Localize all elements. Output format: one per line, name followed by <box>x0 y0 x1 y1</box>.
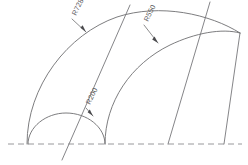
technical-drawing-canvas: R728 R550 R200 <box>0 0 248 165</box>
arc-group <box>27 11 240 144</box>
radial-line-group <box>62 2 240 160</box>
outer-arc <box>27 11 240 144</box>
radial-line-left <box>62 5 130 160</box>
dimension-label-middle-arc: R550 <box>142 3 158 23</box>
dimension-inner-arc: R200 <box>84 86 100 116</box>
radial-line-middle <box>168 2 210 144</box>
middle-arc <box>105 31 240 144</box>
inner-arc <box>28 113 105 144</box>
dimension-label-outer-arc: R728 <box>70 0 86 17</box>
dimension-outer-arc: R728 <box>70 0 86 32</box>
radial-line-right <box>224 33 240 144</box>
dimension-label-inner-arc: R200 <box>84 86 100 106</box>
arrow-head-outer-arc <box>80 25 86 32</box>
arrow-head-middle-arc <box>152 37 158 43</box>
dimension-middle-arc: R550 <box>142 3 158 43</box>
